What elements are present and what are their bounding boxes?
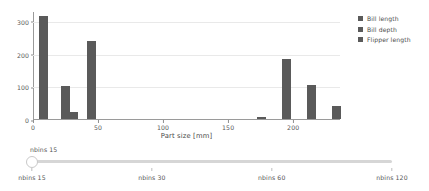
plot-wrapper: 0100200300050100150200 Part size [mm] <box>0 0 352 148</box>
histogram-bar <box>332 106 341 119</box>
y-axis-tick-label: 0 <box>25 117 33 124</box>
histogram-bar <box>69 112 78 119</box>
slider-tick[interactable]: nbins 30 <box>138 168 165 181</box>
slider-tick-mark <box>391 168 392 171</box>
chart-legend: Bill lengthBill depthFlipper length <box>358 14 428 46</box>
histogram-bar <box>257 117 266 119</box>
legend-item[interactable]: Bill depth <box>358 25 428 34</box>
legend-item-label: Bill length <box>367 15 399 22</box>
histogram-bar <box>282 59 291 119</box>
x-axis-tick-label: 0 <box>31 124 35 131</box>
legend-item-label: Flipper length <box>367 36 411 43</box>
y-axis-tick-label: 200 <box>17 51 33 58</box>
histogram-bar <box>307 85 316 119</box>
y-axis-line <box>33 12 34 120</box>
slider-tick[interactable]: nbins 120 <box>376 168 407 181</box>
legend-item-label: Bill depth <box>367 26 397 33</box>
legend-swatch-icon <box>358 27 363 32</box>
x-axis-tick-label: 200 <box>287 124 299 131</box>
slider-tick-label: nbins 30 <box>138 174 165 181</box>
slider-tick-mark <box>151 168 152 171</box>
figure-root: 0100200300050100150200 Part size [mm] Bi… <box>0 0 429 191</box>
legend-item[interactable]: Bill length <box>358 14 428 23</box>
slider-tick[interactable]: nbins 60 <box>258 168 285 181</box>
slider-tick-mark <box>271 168 272 171</box>
x-axis-tick-label: 100 <box>157 124 169 131</box>
slider-handle[interactable] <box>26 156 38 168</box>
slider-tick-label: nbins 120 <box>376 174 407 181</box>
x-axis-tick-label: 150 <box>222 124 234 131</box>
histogram-bar <box>39 16 48 119</box>
slider-tick[interactable]: nbins 15 <box>18 168 45 181</box>
chart-container: 0100200300050100150200 Part size [mm] Bi… <box>0 0 429 148</box>
slider-tick-label: nbins 15 <box>18 174 45 181</box>
slider-container: nbins 15 nbins 15nbins 30nbins 60nbins 1… <box>0 146 429 191</box>
slider-value-label: nbins 15 <box>30 146 57 153</box>
histogram-bar <box>87 41 96 119</box>
y-axis-tick-label: 100 <box>17 84 33 91</box>
gridline <box>33 22 340 23</box>
slider-tick-labels: nbins 15nbins 30nbins 60nbins 120 <box>32 168 392 188</box>
legend-swatch-icon <box>358 16 363 21</box>
x-axis-tick-label: 50 <box>94 124 102 131</box>
x-axis-title: Part size [mm] <box>33 132 340 140</box>
gridline <box>33 55 340 56</box>
slider-track[interactable] <box>32 160 392 163</box>
legend-swatch-icon <box>358 37 363 42</box>
slider-tick-mark <box>31 168 32 171</box>
plot-area: 0100200300050100150200 <box>33 12 340 120</box>
gridline <box>33 87 340 88</box>
y-axis-tick-label: 300 <box>17 18 33 25</box>
legend-item[interactable]: Flipper length <box>358 35 428 44</box>
slider-tick-label: nbins 60 <box>258 174 285 181</box>
